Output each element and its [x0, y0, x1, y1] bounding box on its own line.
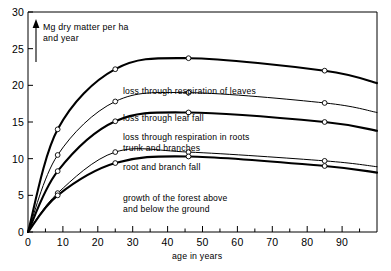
data-point-marker — [55, 127, 60, 132]
x-tick-label-10: 10 — [51, 236, 75, 248]
data-point-marker — [113, 67, 118, 72]
data-point-marker — [113, 161, 118, 166]
data-point-marker — [322, 120, 327, 125]
data-point-marker — [322, 158, 327, 163]
curve-label-respiration-roots-line1: loss through respiration in roots — [123, 132, 250, 143]
data-point-marker — [113, 119, 118, 124]
curve-label-growth-line2: and below the ground — [123, 204, 210, 215]
curve-label-root-branch-fall: root and branch fall — [123, 162, 201, 173]
data-point-marker — [113, 150, 118, 155]
data-point-marker — [322, 164, 327, 169]
y-tick-label-15: 15 — [0, 116, 24, 128]
x-tick-label-60: 60 — [225, 236, 249, 248]
curve-label-respiration-roots-line2: trunk and branches — [123, 143, 200, 154]
x-axis-title: age in years — [172, 251, 222, 261]
y-tick-label-20: 20 — [0, 79, 24, 91]
x-tick-label-70: 70 — [260, 236, 284, 248]
data-point-marker — [322, 68, 327, 73]
y-tick-label-10: 10 — [0, 153, 24, 165]
data-point-marker — [186, 154, 191, 159]
y-axis-title-line2: and year — [43, 33, 79, 44]
x-tick-label-90: 90 — [330, 236, 354, 248]
chart-figure: 30 25 20 15 10 5 0 0 10 20 30 40 50 60 7… — [0, 0, 391, 271]
x-tick-label-20: 20 — [86, 236, 110, 248]
x-tick-label-50: 50 — [191, 236, 215, 248]
data-point-marker — [113, 99, 118, 104]
x-axis-ticks — [45, 226, 359, 232]
y-tick-label-30: 30 — [0, 6, 24, 18]
x-tick-label-80: 80 — [295, 236, 319, 248]
chart-data-markers — [55, 56, 327, 198]
y-tick-label-5: 5 — [0, 189, 24, 201]
x-tick-label-30: 30 — [121, 236, 145, 248]
curve-label-leaf-fall: loss through leaf fall — [123, 113, 204, 124]
data-point-marker — [55, 193, 60, 198]
data-point-marker — [55, 169, 60, 174]
curve-label-respiration-leaves: loss through respiration of leaves — [123, 86, 256, 97]
x-tick-label-0: 0 — [16, 236, 40, 248]
x-tick-label-40: 40 — [156, 236, 180, 248]
y-axis-ticks — [28, 12, 33, 232]
y-tick-label-25: 25 — [0, 43, 24, 55]
y-axis-arrow-icon — [33, 19, 40, 62]
curve-label-growth-line1: growth of the forest above — [123, 193, 228, 204]
data-point-marker — [322, 101, 327, 106]
data-point-marker — [55, 153, 60, 158]
y-axis-title-line1: Mg dry matter per ha — [43, 22, 129, 33]
data-point-marker — [186, 56, 191, 61]
